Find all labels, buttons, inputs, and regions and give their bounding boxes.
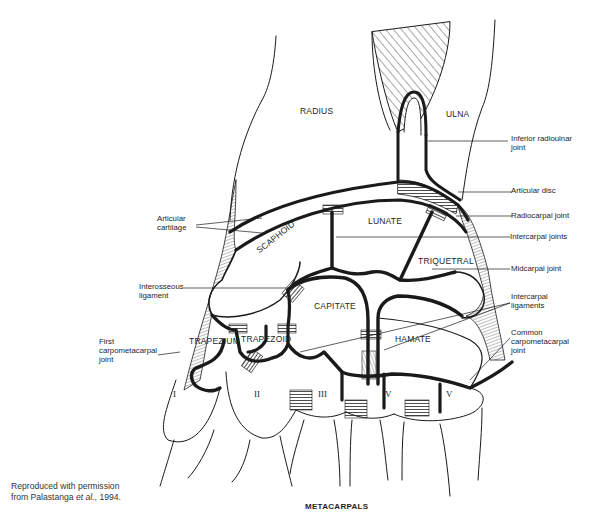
callout-intercarpal-joints: Intercarpal joints <box>510 233 567 242</box>
label-ulna: ULNA <box>446 110 469 120</box>
caption-author: from Palastanga <box>11 492 76 502</box>
metacarpal-II <box>226 372 296 438</box>
callout-articular-cartilage: Articular cartilage <box>157 215 186 233</box>
callout-intercarpal-ligaments: Intercarpal ligaments <box>511 293 548 311</box>
callout-text: joint <box>99 356 157 365</box>
callout-common-carpometacarpal-joint: Common carpometacarpal joint <box>511 329 569 356</box>
label-hamate: HAMATE <box>395 335 431 345</box>
callout-text: cartilage <box>157 224 186 233</box>
radial-collateral-ligament <box>184 180 236 390</box>
label-triquetral: TRIQUETRAL <box>418 257 474 267</box>
callout-first-carpometacarpal-joint: First carpometacarpal joint <box>99 338 157 365</box>
callout-text: joint <box>511 347 569 356</box>
caption-line-1: Reproduced with permission <box>11 481 121 492</box>
callout-text: ligament <box>139 292 184 301</box>
label-metacarpal-5: V <box>446 389 453 399</box>
callout-inferior-radioulnar-joint: Inferior radioulnar joint <box>511 135 572 153</box>
callout-interosseous-ligament: Interosseous ligament <box>139 283 184 301</box>
label-metacarpal-3: III <box>318 389 327 399</box>
callout-text: joint <box>511 144 572 153</box>
metacarpal-III <box>296 410 346 417</box>
figure-caption: Reproduced with permission from Palastan… <box>11 481 121 502</box>
caption-year: , 1994. <box>95 492 121 502</box>
label-trapezoid: TRAPEZOID <box>241 335 291 345</box>
callout-radiocarpal-joint: Radiocarpal joint <box>511 212 569 221</box>
label-trapezium: TRAPEZIUM <box>189 337 240 347</box>
callout-articular-disc: Articular disc <box>511 187 556 196</box>
label-radius: RADIUS <box>300 107 333 117</box>
caption-et-al: et al. <box>76 492 95 502</box>
lunate-triquetral-joint <box>400 212 455 280</box>
wrist-joint-diagram <box>0 0 598 532</box>
label-metacarpals: METACARPALS <box>305 502 368 511</box>
callout-midcarpal-joint: Midcarpal joint <box>511 265 561 274</box>
callout-text: ligaments <box>511 302 548 311</box>
radius-outline-left <box>230 36 276 220</box>
label-metacarpal-4: IV <box>382 389 392 399</box>
ulnar-collateral-ligament <box>458 205 505 360</box>
label-lunate: LUNATE <box>368 217 402 227</box>
caption-line-2: from Palastanga et al., 1994. <box>11 492 121 503</box>
label-capitate: CAPITATE <box>314 302 356 312</box>
label-metacarpal-2: II <box>254 389 260 399</box>
label-metacarpal-1: I <box>173 389 176 399</box>
